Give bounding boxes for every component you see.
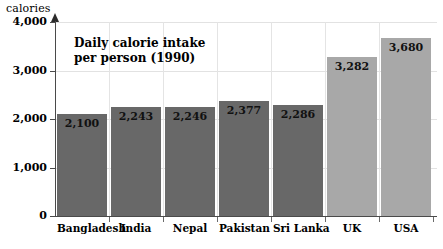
bar: 2,246 (165, 107, 215, 216)
bar: 2,286 (273, 105, 323, 216)
category-label: India (111, 222, 161, 234)
category-label: Bangladesh (57, 222, 107, 234)
gridline-vertical (271, 22, 272, 216)
bar-value-label: 2,100 (57, 117, 107, 130)
x-tick-mark (163, 217, 164, 222)
category-label: Nepal (165, 222, 215, 234)
x-tick-mark (379, 217, 380, 222)
bar-value-label: 3,282 (327, 60, 377, 73)
bar: 2,377 (219, 101, 269, 216)
y-tick-label: 2,000 (0, 112, 47, 125)
bar-value-label: 2,377 (219, 104, 269, 117)
category-label: Pakistan (219, 222, 269, 234)
category-label: UK (327, 222, 377, 234)
y-tick-label: 0 (0, 209, 47, 222)
x-tick-mark (433, 217, 434, 222)
bar-value-label: 2,286 (273, 108, 323, 121)
y-tick-label: 3,000 (0, 64, 47, 77)
bar: 2,100 (57, 114, 107, 216)
chart-title-line-1: Daily calorie intake (74, 36, 205, 51)
chart-title: Daily calorie intake per person (1990) (74, 36, 205, 66)
gridline-vertical (217, 22, 218, 216)
y-tick-mark (50, 216, 56, 217)
x-tick-mark (325, 217, 326, 222)
bar-value-label: 3,680 (381, 41, 431, 54)
bar: 2,243 (111, 107, 161, 216)
x-tick-mark (217, 217, 218, 222)
chart-title-line-2: per person (1990) (74, 51, 205, 66)
bar: 3,680 (381, 38, 431, 216)
bar-chart: calories 01,0002,0003,0004,000 2,1002,24… (0, 0, 443, 249)
gridline-vertical (325, 22, 326, 216)
y-tick-label: 4,000 (0, 15, 47, 28)
y-tick-label: 1,000 (0, 161, 47, 174)
x-tick-mark (271, 217, 272, 222)
bar-value-label: 2,246 (165, 110, 215, 123)
category-label: Sri Lanka (273, 222, 323, 234)
x-tick-mark (109, 217, 110, 222)
bar-value-label: 2,243 (111, 110, 161, 123)
gridline-vertical (379, 22, 380, 216)
category-label: USA (381, 222, 431, 234)
y-axis-title: calories (6, 2, 51, 15)
bar: 3,282 (327, 57, 377, 216)
